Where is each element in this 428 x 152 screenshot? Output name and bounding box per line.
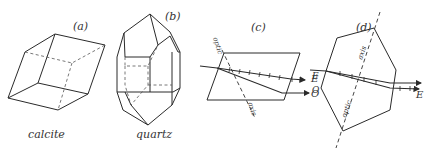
panel-d-optic-label: optic (340, 99, 353, 118)
birefringence-plate-d: (d) axis optic E O E (310, 12, 424, 148)
panel-d-title: (d) (356, 21, 372, 34)
panel-b-title: (b) (165, 10, 181, 23)
panel-a-title: (a) (73, 20, 88, 33)
panel-c-title: (c) (251, 21, 266, 34)
panel-d-ray-e-left: E (311, 71, 319, 81)
panel-a-caption: calcite (28, 128, 65, 141)
panel-c-optic-label: optic (211, 36, 224, 55)
panel-c-axis-label: axis (246, 101, 258, 117)
calcite-crystal: (a) calcite (8, 20, 105, 141)
panel-d-ray-o-left: O (312, 85, 320, 95)
panel-d-ray-e-right: E (415, 89, 424, 100)
birefringence-plate-c: (c) optic axis E O (200, 21, 319, 118)
quartz-crystal: (b) quartz (117, 10, 181, 141)
panel-b-caption: quartz (136, 128, 172, 141)
crystal-optics-diagram: (a) calcite (b) quartz (c) optic axi (0, 0, 428, 152)
